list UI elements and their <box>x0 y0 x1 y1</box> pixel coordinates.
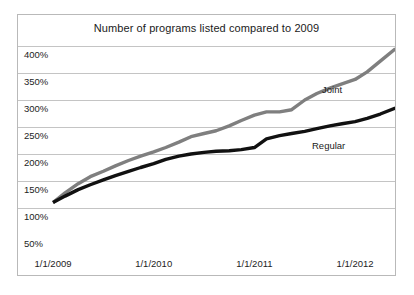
x-axis-tick-label: 1/1/2011 <box>236 258 272 269</box>
x-axis-tick-label: 1/1/2012 <box>337 258 374 269</box>
plot-area <box>18 41 395 235</box>
series-label-joint: Joint <box>322 84 342 95</box>
series-line-regular <box>53 108 395 203</box>
x-axis-tick-label: 1/1/2010 <box>135 258 172 269</box>
chart-container: Number of programs listed compared to 20… <box>0 0 414 295</box>
x-axis-tick-label: 1/1/2009 <box>35 258 72 269</box>
series-lines <box>53 49 395 203</box>
series-label-regular: Regular <box>312 140 345 151</box>
plot-svg <box>18 41 395 235</box>
chart-title: Number of programs listed compared to 20… <box>17 14 396 41</box>
